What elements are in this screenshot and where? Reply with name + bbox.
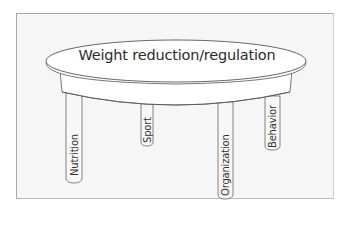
leg-label-nutrition: Nutrition	[69, 134, 80, 176]
leg-label-organization: Organization	[220, 134, 231, 196]
leg-label-sport: Sport	[142, 117, 153, 143]
leg-label-behavior: Behavior	[267, 105, 278, 148]
diagram-title: Weight reduction/regulation	[48, 47, 306, 63]
table-illustration	[0, 0, 349, 226]
